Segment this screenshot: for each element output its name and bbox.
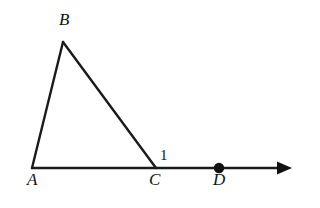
segment-ab — [32, 42, 63, 168]
arrowhead-icon — [277, 162, 292, 175]
geometry-figure: B A C D 1 — [0, 0, 320, 208]
vertex-label-b: B — [59, 11, 69, 28]
point-label-d: D — [213, 171, 225, 188]
segment-bc — [63, 42, 156, 168]
vertex-label-c: C — [149, 171, 160, 188]
angle-label-1: 1 — [160, 148, 168, 163]
vertex-label-a: A — [27, 171, 37, 188]
